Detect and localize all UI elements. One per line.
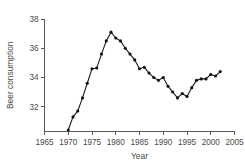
y-tick-label: 32 — [29, 103, 39, 112]
data-point-marker — [128, 53, 131, 56]
data-point-marker — [109, 31, 112, 34]
data-point-marker — [214, 74, 217, 77]
x-tick-label: 1995 — [178, 138, 197, 147]
data-point-marker — [171, 91, 174, 94]
data-point-marker — [133, 58, 136, 61]
x-axis-title: Year — [131, 151, 148, 161]
data-point-marker — [143, 66, 146, 69]
x-tick-label: 1990 — [154, 138, 173, 147]
data-point-marker — [204, 77, 207, 80]
data-point-marker — [181, 92, 184, 95]
data-point-marker — [105, 39, 108, 42]
data-point-marker — [176, 96, 179, 99]
data-point-marker — [209, 73, 212, 76]
chart-plot-area: 3234363819651970197519801985199019952000… — [0, 0, 245, 166]
data-point-marker — [95, 66, 98, 69]
x-tick-label: 1985 — [130, 138, 149, 147]
data-point-marker — [67, 128, 70, 131]
data-point-marker — [86, 82, 89, 85]
data-point-marker — [147, 72, 150, 75]
data-point-marker — [76, 110, 79, 113]
data-point-marker — [166, 85, 169, 88]
x-tick-label: 1975 — [83, 138, 102, 147]
data-point-marker — [195, 79, 198, 82]
data-point-marker — [138, 67, 141, 70]
x-tick-label: 1965 — [35, 138, 54, 147]
data-point-marker — [157, 79, 160, 82]
x-tick-label: 2005 — [225, 138, 244, 147]
data-point-marker — [81, 96, 84, 99]
data-point-marker — [162, 76, 165, 79]
data-point-marker — [114, 36, 117, 39]
beer-consumption-chart: 3234363819651970197519801985199019952000… — [0, 0, 245, 166]
y-tick-label: 38 — [29, 15, 39, 24]
x-tick-label: 2000 — [202, 138, 221, 147]
data-point-marker — [90, 67, 93, 70]
y-axis-title: Beer consumption — [5, 41, 15, 109]
data-point-marker — [124, 47, 127, 50]
data-point-marker — [219, 70, 222, 73]
data-point-marker — [200, 77, 203, 80]
x-tick-label: 1980 — [107, 138, 126, 147]
data-point-marker — [152, 76, 155, 79]
data-point-marker — [119, 39, 122, 42]
data-point-marker — [190, 86, 193, 89]
data-point-marker — [100, 53, 103, 56]
data-point-marker — [185, 95, 188, 98]
data-point-marker — [71, 115, 74, 118]
y-tick-label: 34 — [29, 73, 39, 82]
y-tick-label: 36 — [29, 44, 39, 53]
x-tick-label: 1970 — [59, 138, 78, 147]
